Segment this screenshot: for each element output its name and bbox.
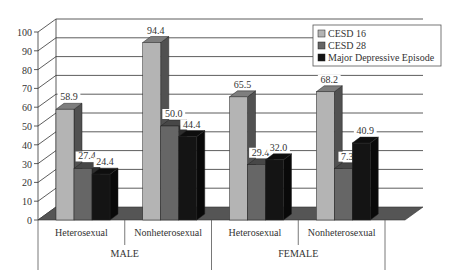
data-label: 24.4 bbox=[96, 156, 114, 167]
data-label: 7.3 bbox=[341, 151, 354, 162]
data-label: 50.0 bbox=[165, 108, 183, 119]
y-tick-label: 80 bbox=[22, 65, 32, 76]
y-tick-label: 60 bbox=[22, 102, 32, 113]
y-tick-label: 0 bbox=[27, 215, 32, 226]
x-category-label: Nonheterosexual bbox=[308, 227, 376, 238]
bar: 24.4 bbox=[92, 156, 118, 220]
x-category-label: Heterosexual bbox=[55, 227, 108, 238]
x-group-label: FEMALE bbox=[278, 248, 318, 259]
y-tick-label: 100 bbox=[17, 27, 32, 38]
data-label: 27.4 bbox=[78, 150, 96, 161]
y-tick-label: 20 bbox=[22, 177, 32, 188]
data-label: 32.0 bbox=[270, 142, 288, 153]
data-label: 29.4 bbox=[252, 147, 270, 158]
y-tick-label: 40 bbox=[22, 140, 32, 151]
legend-swatch bbox=[318, 54, 325, 61]
bar: 40.9 bbox=[352, 125, 378, 220]
legend-label: CESD 16 bbox=[328, 28, 366, 39]
x-category-label: Heterosexual bbox=[228, 227, 281, 238]
x-group-label: MALE bbox=[111, 248, 139, 259]
x-axis: HeterosexualNonheterosexualHeterosexualN… bbox=[38, 220, 385, 270]
y-tick-label: 70 bbox=[22, 83, 32, 94]
legend-swatch bbox=[318, 42, 325, 49]
data-label: 44.4 bbox=[183, 119, 201, 130]
y-tick-label: 90 bbox=[22, 46, 32, 57]
data-label: 65.5 bbox=[234, 79, 252, 90]
legend-label: CESD 28 bbox=[328, 40, 366, 51]
y-tick-label: 30 bbox=[22, 159, 32, 170]
legend: CESD 16CESD 28Major Depressive Episode bbox=[313, 25, 441, 66]
y-tick-label: 10 bbox=[22, 196, 32, 207]
legend-swatch bbox=[318, 30, 325, 37]
bar-chart: 0102030405060708090100 58.927.424.494.45… bbox=[0, 0, 450, 272]
x-category-label: Nonheterosexual bbox=[134, 227, 202, 238]
y-axis: 0102030405060708090100 bbox=[17, 27, 38, 226]
data-label: 94.4 bbox=[147, 25, 165, 36]
legend-label: Major Depressive Episode bbox=[328, 52, 435, 63]
y-tick-label: 50 bbox=[22, 121, 32, 132]
data-label: 40.9 bbox=[357, 125, 375, 136]
data-label: 68.2 bbox=[321, 74, 339, 85]
bar: 44.4 bbox=[179, 119, 205, 220]
data-label: 58.9 bbox=[60, 91, 78, 102]
chart-container: 0102030405060708090100 58.927.424.494.45… bbox=[0, 0, 450, 272]
